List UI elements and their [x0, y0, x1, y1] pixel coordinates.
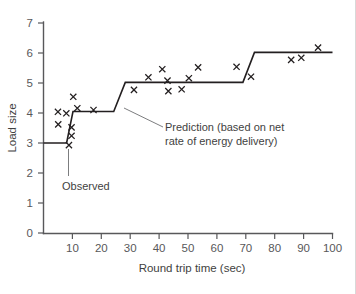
y-axis-title: Load size [6, 103, 18, 152]
y-tick-label-6: 6 [27, 47, 33, 59]
y-tick-label-2: 2 [27, 167, 33, 179]
y-tick-label-5: 5 [27, 77, 33, 89]
y-tick-label-7: 7 [27, 17, 33, 29]
x-axis-title: Round trip time (sec) [139, 262, 246, 274]
prediction-annotation-line-1: Prediction (based on net [165, 121, 284, 133]
y-tick-label-0: 0 [27, 227, 33, 239]
x-tick-label-40: 40 [153, 242, 166, 254]
y-tick-label-4: 4 [27, 107, 34, 119]
chart-canvas: 7 6 5 4 3 2 1 0 10 20 [0, 0, 356, 294]
observed-annotation-label: Observed [62, 180, 110, 192]
x-tick-label-50: 50 [182, 242, 195, 254]
x-tick-label-30: 30 [124, 242, 137, 254]
x-tick-label-70: 70 [239, 242, 252, 254]
figure-container: 7 6 5 4 3 2 1 0 10 20 [0, 0, 356, 294]
x-tick-label-100: 100 [323, 242, 342, 254]
y-tick-label-3: 3 [27, 137, 33, 149]
x-tick-label-80: 80 [268, 242, 281, 254]
x-tick-label-90: 90 [297, 242, 310, 254]
prediction-annotation-line-2: rate of energy delivery) [165, 135, 278, 147]
x-tick-label-60: 60 [211, 242, 224, 254]
y-tick-label-1: 1 [27, 197, 33, 209]
x-tick-label-10: 10 [66, 242, 79, 254]
x-tick-label-20: 20 [95, 242, 108, 254]
